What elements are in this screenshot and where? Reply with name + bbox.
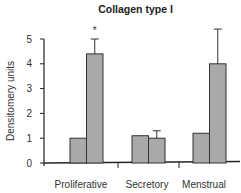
y-tick-label: 3	[26, 83, 32, 94]
bar	[193, 133, 210, 163]
x-category-label: Menstrual	[182, 179, 226, 190]
x-category-label: Secretory	[126, 179, 169, 190]
y-tick-label: 1	[26, 133, 32, 144]
x-category-label: Proliferative	[55, 179, 108, 190]
significance-marker: *	[93, 25, 97, 36]
y-tick-label: 4	[26, 58, 32, 69]
y-axis-label: Densitomery units	[5, 61, 16, 141]
bar	[210, 64, 227, 163]
bar	[132, 136, 149, 163]
bar-chart: 012345Densitomery unitsProliferativeSecr…	[0, 0, 241, 193]
y-tick-label: 2	[26, 108, 32, 119]
y-tick-label: 5	[26, 34, 32, 45]
bar	[87, 54, 104, 163]
bar	[70, 138, 87, 163]
y-tick-label: 0	[26, 158, 32, 169]
bar	[149, 138, 166, 163]
